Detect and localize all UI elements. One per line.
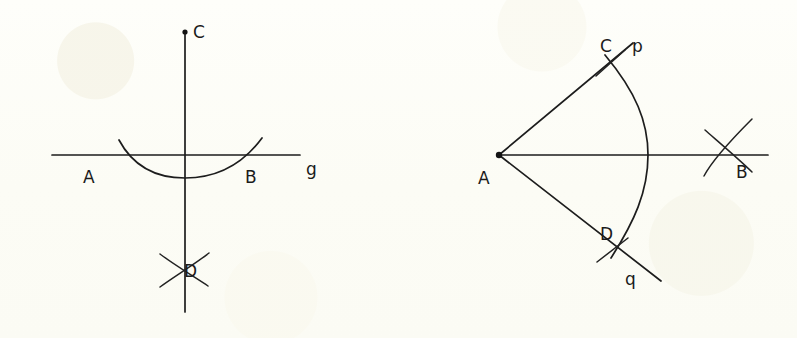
ray-q <box>499 155 661 281</box>
point-a-dot <box>496 152 502 158</box>
label-ray-q: q <box>625 269 636 289</box>
figure-canvas: C A B g D A C p D q B <box>0 0 797 338</box>
right-diagram: A C p D q B <box>0 0 797 338</box>
label-right-point-c: C <box>600 36 612 56</box>
ray-p <box>499 43 633 155</box>
label-right-point-a: A <box>478 168 490 188</box>
label-right-point-d: D <box>600 224 613 244</box>
label-right-point-b: B <box>736 162 748 182</box>
label-ray-p: p <box>632 36 643 56</box>
